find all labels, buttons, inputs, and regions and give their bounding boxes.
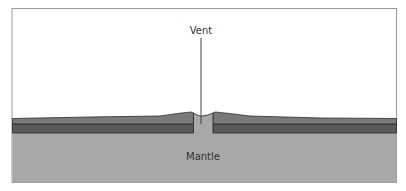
left-lower-crust-layer	[13, 124, 194, 133]
mantle-label: Mantle	[186, 151, 220, 162]
right-lower-crust-layer	[213, 124, 397, 133]
mid-ocean-ridge-diagram: Vent Mantle	[0, 0, 406, 191]
vent-label: Vent	[190, 25, 213, 36]
